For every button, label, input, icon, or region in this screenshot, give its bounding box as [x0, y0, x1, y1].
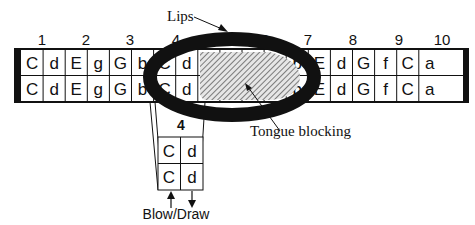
reed-note-cell: d — [49, 80, 58, 99]
reed-note-cell: G — [357, 54, 370, 73]
inset-cell: C — [163, 168, 175, 187]
inset-hole-number: 4 — [177, 117, 185, 133]
inset-cell: d — [187, 168, 196, 187]
inset-cell: d — [187, 142, 196, 161]
reed-note-cell: G — [357, 80, 370, 99]
reed-note-cell: d — [337, 54, 346, 73]
reed-note-cell: f — [383, 54, 388, 73]
hole-number: 1 — [38, 31, 46, 48]
hole-number: 7 — [304, 31, 312, 48]
reed-note-cell: d — [182, 80, 191, 99]
hole-number: 3 — [126, 31, 134, 48]
tongue-blocking-label: Tongue blocking — [250, 123, 352, 139]
inset-hole-4: 4 C d C d — [158, 117, 203, 190]
blow-draw-label: Blow/Draw — [143, 206, 211, 222]
reed-note-cell: d — [337, 80, 346, 99]
lips-label: Lips — [167, 8, 194, 24]
hole-number: 10 — [434, 31, 451, 48]
reed-note-cell: C — [26, 80, 38, 99]
hole-number: 2 — [82, 31, 90, 48]
reed-note-cell: C — [26, 54, 38, 73]
reed-note-cell: g — [94, 54, 103, 73]
inset-cell: C — [163, 142, 175, 161]
reed-note-cell: d — [49, 54, 58, 73]
lips-arrow-icon — [194, 17, 228, 32]
reed-note-cell: a — [425, 80, 435, 99]
reed-note-cell: d — [182, 54, 191, 73]
reed-note-cell: G — [114, 54, 127, 73]
reed-note-cell: a — [425, 54, 435, 73]
hole-number: 8 — [349, 31, 357, 48]
reed-note-cell: E — [71, 80, 82, 99]
reed-note-cell: C — [402, 80, 414, 99]
reed-note-cell: G — [114, 80, 127, 99]
hole-number: 9 — [395, 31, 403, 48]
tongue-blocking-area — [200, 52, 300, 100]
reed-note-cell: C — [402, 54, 414, 73]
reed-note-cell: g — [94, 80, 103, 99]
reed-note-cell: E — [71, 54, 82, 73]
reed-note-cell: f — [383, 80, 388, 99]
harmonica-diagram: CdEgGbCdbEdGfCaCdEgGbCdbEdGfCa 1 2 3 4 6… — [0, 0, 475, 225]
